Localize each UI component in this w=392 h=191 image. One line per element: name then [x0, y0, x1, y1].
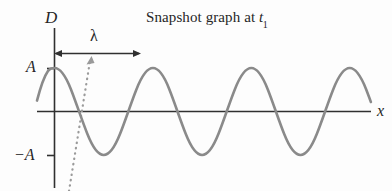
wavelength-symbol-label: λ — [90, 28, 98, 44]
title-prefix-text: Snapshot graph at — [146, 9, 259, 25]
dotted-propagation-arrow — [69, 56, 95, 191]
x-axis-label: x — [377, 103, 384, 119]
amplitude-tick-label: A — [26, 59, 36, 75]
wave-plot-svg — [0, 0, 392, 191]
title-time-subscript: 1 — [263, 19, 268, 30]
wavelength-double-arrow — [54, 50, 141, 57]
y-axis-label: D — [45, 9, 57, 26]
snapshot-graph-figure: Snapshot graph at t1 D x A −A λ — [0, 0, 392, 191]
chart-title: Snapshot graph at t1 — [146, 10, 268, 28]
negative-amplitude-tick-label: −A — [14, 147, 35, 163]
